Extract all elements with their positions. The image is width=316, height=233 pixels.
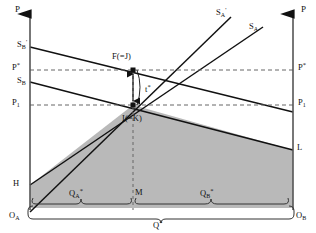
curve-label-supply-b-shifted: SB' bbox=[17, 40, 27, 49]
diagram-svg bbox=[0, 0, 316, 233]
price-label-p-star-left: P* bbox=[12, 63, 20, 72]
origin-label-b: OB bbox=[296, 211, 306, 220]
price-label-p-star-right: P* bbox=[298, 63, 306, 72]
tax-wedge-label: t* bbox=[145, 85, 151, 94]
curve-label-supply-b: SB bbox=[17, 76, 26, 85]
price-label-p-one-right: P1 bbox=[298, 98, 306, 107]
curve-label-supply-a: SA bbox=[249, 22, 258, 31]
price-label-p-one-left: P1 bbox=[12, 98, 20, 107]
axis-label-left-price: P bbox=[15, 5, 20, 14]
point-label-m: M bbox=[135, 188, 143, 197]
brace-label-qtotal: Q* bbox=[153, 221, 163, 230]
brace-label-qa: QA* bbox=[69, 189, 83, 198]
curve-label-supply-a-shifted: SA' bbox=[216, 8, 227, 17]
point-label-f: F(=J) bbox=[112, 52, 131, 61]
origin-label-a: OA bbox=[9, 211, 20, 220]
curve-supply-b-shifted bbox=[30, 47, 293, 112]
diagram-canvas: P P OA OB P* P* P1 P1 SB' SB SA' SA F(=J… bbox=[0, 0, 316, 233]
brace-label-qb: QB* bbox=[200, 189, 214, 198]
axis-label-right-price: P bbox=[301, 5, 306, 14]
marker-point-i bbox=[131, 103, 136, 108]
point-label-i: I(=K) bbox=[122, 114, 142, 123]
point-label-l: L bbox=[297, 143, 302, 152]
tax-wedge-arrow bbox=[133, 70, 140, 105]
point-label-h: H bbox=[13, 179, 19, 188]
marker-point-f bbox=[131, 68, 136, 73]
